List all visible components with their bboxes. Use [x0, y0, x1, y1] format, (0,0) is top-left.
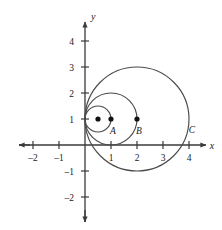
center-point — [95, 116, 100, 121]
center-point-b — [134, 116, 139, 121]
label-c: C — [189, 125, 196, 135]
y-tick-labels: 4 3 2 1 –1 –2 — [64, 37, 75, 203]
coordinate-plot: –2 –1 1 2 3 4 4 3 2 1 –1 –2 x y A B C — [0, 0, 222, 230]
label-b: B — [136, 126, 142, 136]
y-tick-label: –2 — [64, 193, 75, 203]
x-tick-label: –1 — [53, 153, 64, 163]
y-tick-label: –1 — [64, 167, 75, 177]
center-points-group — [95, 116, 139, 121]
x-tick-label: –2 — [27, 153, 38, 163]
y-axis-label: y — [90, 11, 96, 22]
y-tick-label: 4 — [69, 37, 74, 47]
y-tick-label: 1 — [69, 115, 74, 125]
x-tick-label: 4 — [187, 153, 192, 163]
x-tick-label: 1 — [109, 153, 114, 163]
axes-group — [19, 22, 206, 222]
x-tick-label: 2 — [135, 153, 140, 163]
x-axis-label: x — [209, 140, 215, 151]
label-a: A — [109, 126, 116, 136]
center-point-a — [108, 116, 113, 121]
x-tick-label: 3 — [161, 153, 166, 163]
circles-figure: –2 –1 1 2 3 4 4 3 2 1 –1 –2 x y A B C — [0, 0, 222, 230]
y-tick-label: 2 — [69, 89, 74, 99]
y-tick-label: 3 — [69, 63, 74, 73]
